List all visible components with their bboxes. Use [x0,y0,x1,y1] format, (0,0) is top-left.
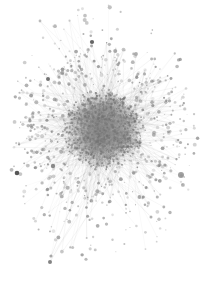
network-graph-figure: Force-directed network graph with a dens… [0,0,209,295]
network-graph-canvas [0,0,209,295]
